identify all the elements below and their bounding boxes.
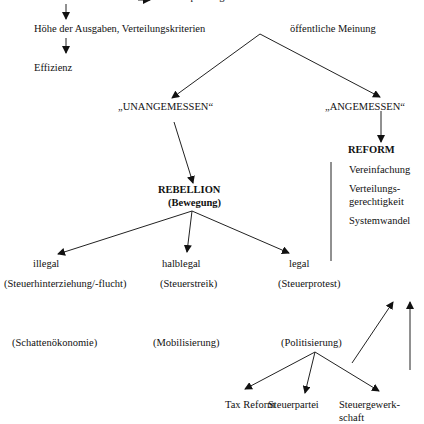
reform-item: Vereinfachung: [349, 164, 410, 177]
branch-illegal-example: (Steuerhinterziehung/-flucht): [4, 278, 126, 291]
finanzplanung-label-cut: Finanzplanung/Evaluation: [162, 0, 273, 2]
rebellion-subtitle: (Bewegung): [168, 197, 221, 210]
branch-illegal-label: illegal: [33, 258, 59, 271]
angemessen-label: „ANGEMESSEN“: [325, 101, 405, 114]
branch-legal-label: legal: [289, 258, 309, 271]
branch-halblegal-example: (Steuerstreik): [160, 278, 217, 291]
reform-title: REFORM: [348, 144, 395, 157]
branch-legal-example: (Steuerprotest): [278, 278, 340, 291]
spending-label: Höhe der Ausgaben, Verteilungskriterien: [34, 23, 205, 36]
expertise-label-cut: EXPERTISE: [312, 0, 367, 2]
steuerpartei-label: Steuerpartei: [268, 399, 319, 412]
reform-item: Verteilungs-: [349, 183, 400, 196]
reform-item: Systemwandel: [349, 215, 410, 228]
rebellion-title: REBELLION: [158, 184, 220, 197]
branch-halblegal-outcome: (Mobilisierung): [153, 337, 220, 350]
steuergewerkschaft-label-1: Steuergewerk-: [339, 399, 400, 412]
unangemessen-label: „UNANGEMESSEN“: [118, 101, 213, 114]
branch-halblegal-label: halblegal: [162, 258, 200, 271]
public-opinion-label: öffentliche Meinung: [290, 23, 376, 36]
branch-legal-outcome: (Politisierung): [281, 337, 342, 350]
branch-illegal-outcome: (Schattenökonomie): [12, 337, 97, 350]
efficiency-label: Effizienz: [34, 62, 72, 75]
reform-item: gerechtigkeit: [349, 196, 404, 209]
budget-label-cut: BUDGET: [36, 0, 79, 2]
steuergewerkschaft-label-2: schaft: [339, 412, 364, 424]
